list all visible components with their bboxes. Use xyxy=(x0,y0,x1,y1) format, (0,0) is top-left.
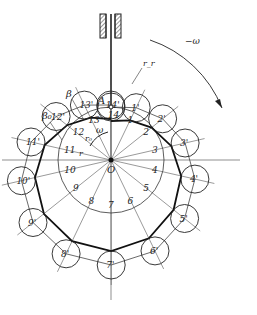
reverse-rotation-arrow xyxy=(150,40,222,108)
roller-label: 13' xyxy=(79,100,93,110)
roller-labels: 1'2'3'4'5'6'7'8'9'10'11'12'13'14' xyxy=(16,100,198,270)
roller-label: 6' xyxy=(150,246,158,256)
division-label: 4 xyxy=(151,165,158,175)
division-label: 12 xyxy=(73,127,85,137)
division-label: 10 xyxy=(64,165,76,175)
division-label: 8 xyxy=(89,196,95,206)
pitch-curve-label: β xyxy=(65,88,72,99)
roller-label: 11' xyxy=(26,137,40,147)
roller-label: 1' xyxy=(131,103,139,113)
roller-label: 3' xyxy=(180,138,188,148)
division-label: 2 xyxy=(142,127,149,137)
pitch-curve-beta xyxy=(21,105,195,265)
arrowhead xyxy=(215,99,222,108)
center-label-o: O xyxy=(107,164,115,175)
division-label: 1 xyxy=(128,115,134,125)
roller-label: 2' xyxy=(157,114,166,124)
cam-drawing: 1234567891011121314 1'2'3'4'5'6'7'8'9'10… xyxy=(0,0,257,315)
contact-point-a xyxy=(109,105,113,109)
roller-label: 12' xyxy=(51,112,65,122)
cam-diagram: 1234567891011121314 1'2'3'4'5'6'7'8'9'10… xyxy=(0,0,257,315)
roller-label: 8' xyxy=(61,249,69,259)
roller-label: 7' xyxy=(106,260,114,270)
roller-radius-leader xyxy=(132,68,142,84)
division-label: 13 xyxy=(88,115,100,125)
division-label: 5 xyxy=(143,183,149,193)
division-label: 3 xyxy=(152,145,158,155)
division-label: 7 xyxy=(108,200,114,210)
reverse-omega-label: −ω xyxy=(185,36,201,46)
cam-center xyxy=(109,158,114,163)
division-label: 6 xyxy=(128,196,134,206)
roller-label: 9' xyxy=(28,218,36,228)
division-label: 9 xyxy=(73,183,79,193)
omega-label: ω xyxy=(96,125,104,135)
division-label: 11 xyxy=(64,145,75,155)
roller-radius-label: r_r xyxy=(143,59,156,68)
division-label: 14 xyxy=(108,110,120,120)
base-pitch-label: β₀ xyxy=(41,110,52,121)
roller-label: 10' xyxy=(16,176,30,186)
roller-label: 4' xyxy=(189,174,198,184)
roller-label: 5' xyxy=(180,214,188,224)
base-radius-label: r₀ xyxy=(85,134,93,143)
contact-label-a: A xyxy=(97,95,105,106)
